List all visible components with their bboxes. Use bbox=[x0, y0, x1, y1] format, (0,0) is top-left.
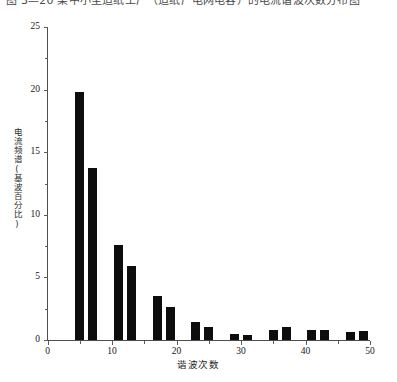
y-tick-label: 5 bbox=[14, 271, 40, 281]
x-axis-title: 谐波次数 bbox=[0, 357, 397, 371]
bar bbox=[204, 327, 213, 340]
x-tick-major bbox=[241, 341, 242, 345]
y-tick-major bbox=[44, 27, 48, 28]
y-tick-major bbox=[44, 215, 48, 216]
bar bbox=[191, 322, 200, 340]
x-tick-minor bbox=[338, 341, 339, 344]
bar bbox=[166, 307, 175, 340]
x-tick-label: 50 bbox=[355, 346, 385, 356]
y-tick-major bbox=[44, 277, 48, 278]
y-tick-label: 10 bbox=[14, 209, 40, 219]
bar bbox=[230, 334, 239, 340]
bar bbox=[282, 327, 291, 340]
x-tick-label: 40 bbox=[291, 346, 321, 356]
y-tick-label: 25 bbox=[14, 21, 40, 31]
x-tick-major bbox=[112, 341, 113, 345]
x-tick-label: 20 bbox=[162, 346, 192, 356]
harmonic-spectrum-chart: 电流频谱(基波百分比) 谐波次数 051015202501020304050 bbox=[0, 0, 397, 382]
y-tick-minor bbox=[45, 58, 48, 59]
bar bbox=[153, 296, 162, 340]
y-tick-major bbox=[44, 152, 48, 153]
y-tick-minor bbox=[45, 246, 48, 247]
y-tick-minor bbox=[45, 121, 48, 122]
x-tick-major bbox=[177, 341, 178, 345]
x-tick-minor bbox=[209, 341, 210, 344]
bar bbox=[114, 245, 123, 340]
x-tick-minor bbox=[80, 341, 81, 344]
x-tick-minor bbox=[273, 341, 274, 344]
bar bbox=[243, 335, 252, 340]
bar bbox=[346, 332, 355, 340]
x-tick-major bbox=[48, 341, 49, 345]
bar bbox=[269, 330, 278, 340]
x-tick-label: 30 bbox=[226, 346, 256, 356]
y-tick-label: 20 bbox=[14, 84, 40, 94]
bar bbox=[88, 168, 97, 340]
bar bbox=[320, 330, 329, 340]
x-tick-label: 10 bbox=[97, 346, 127, 356]
y-tick-label: 0 bbox=[14, 334, 40, 344]
bar bbox=[127, 266, 136, 340]
bar bbox=[307, 330, 316, 340]
bar bbox=[75, 92, 84, 340]
y-tick-label: 15 bbox=[14, 146, 40, 156]
y-tick-major bbox=[44, 90, 48, 91]
x-tick-major bbox=[370, 341, 371, 345]
bar bbox=[359, 331, 368, 340]
y-tick-minor bbox=[45, 184, 48, 185]
x-tick-label: 0 bbox=[33, 346, 63, 356]
x-tick-minor bbox=[144, 341, 145, 344]
x-tick-major bbox=[306, 341, 307, 345]
y-tick-minor bbox=[45, 309, 48, 310]
